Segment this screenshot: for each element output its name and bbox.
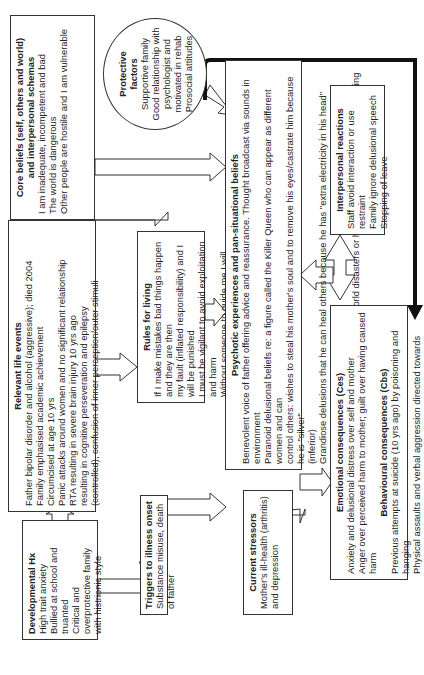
behavioural-title: Behavioural consequences (Cbs) <box>378 311 389 574</box>
triggers-box: Triggers to illness onset Substance misu… <box>140 495 168 615</box>
interpersonal-title: Interpersonal reactions <box>334 91 345 229</box>
emotional-title: Emotional consequences (Ces) <box>334 311 345 574</box>
rules-for-living-box: Rules for living If I make mistakes bad … <box>137 231 205 403</box>
psychotic-title: Psychotic experiences and pan-situationa… <box>229 66 240 464</box>
interpersonal-reactions-box: Interpersonal reactions Staff avoid inte… <box>330 85 385 235</box>
consequences-box: Emotional consequences (Ces) Anxiety and… <box>330 305 408 580</box>
developmental-hx-box: Developmental Hx High trait anxiety Bull… <box>22 520 98 640</box>
psychotic-experiences-box: Psychotic experiences and pan-situationa… <box>225 60 302 470</box>
developmental-title: Developmental Hx <box>26 526 37 634</box>
life-events-box: Relevant life events Father bipolar diso… <box>8 220 96 512</box>
life-events-title: Relevant life events <box>12 226 23 506</box>
rules-title: Rules for living <box>141 237 152 397</box>
protective-factors-circle: Protective factors Supportive family Goo… <box>103 18 207 130</box>
core-beliefs-box: Core beliefs (self, others and world) an… <box>10 15 95 220</box>
core-beliefs-title: Core beliefs (self, others and world) <box>14 21 25 214</box>
stressors-title: Current stressors <box>247 496 258 609</box>
triggers-title: Triggers to illness onset <box>143 501 154 609</box>
formulation-diagram: Developmental Hx High trait anxiety Bull… <box>0 0 424 675</box>
current-stressors-box: Current stressors Mother's ill-health (a… <box>243 490 293 615</box>
